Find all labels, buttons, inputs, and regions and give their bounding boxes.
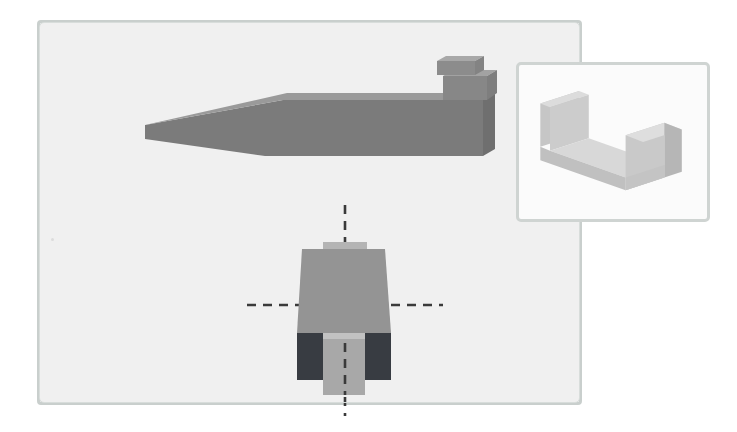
front-view[interactable] <box>245 203 445 418</box>
sheet-speck-artifact <box>51 238 54 241</box>
drawing-sheet[interactable] <box>37 20 582 405</box>
front-view-body <box>297 249 391 333</box>
side-view[interactable] <box>135 53 505 168</box>
front-view-web-top-edge <box>323 333 365 339</box>
side-view-front-face <box>145 100 483 156</box>
front-view-flange-right <box>365 333 391 380</box>
side-view-right-end-face <box>483 93 495 156</box>
iso-right-upright-side <box>664 123 681 178</box>
side-view-block-lower-face <box>443 76 487 100</box>
front-view-top-cap <box>323 242 367 250</box>
side-view-block-upper-face <box>437 61 475 75</box>
front-view-flange-left <box>297 333 323 380</box>
screenshot-canvas <box>0 0 737 432</box>
isometric-inset-panel[interactable] <box>516 62 710 222</box>
